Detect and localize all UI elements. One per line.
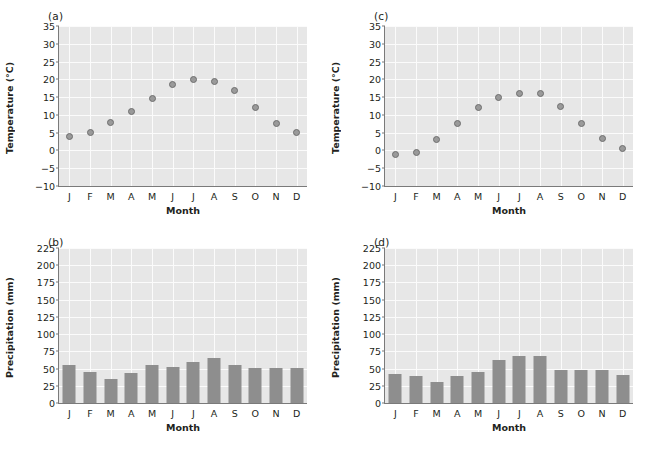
y-axis-tick-mark (382, 150, 385, 151)
gridline-horizontal (385, 334, 633, 335)
x-axis-tick-label: O (578, 408, 585, 419)
data-bar (249, 368, 262, 403)
gridline-horizontal (59, 133, 307, 134)
gridline-horizontal (385, 133, 633, 134)
data-point-marker (475, 104, 482, 111)
gridline-vertical (173, 26, 174, 186)
y-axis-tick-mark (382, 186, 385, 187)
panel-d-precipitation: (d) Precipitation (mm) Month 02550751001… (326, 226, 652, 452)
gridline-horizontal (59, 97, 307, 98)
gridline-horizontal (59, 150, 307, 151)
panel-c-y-axis-title: Temperature (°C) (328, 28, 342, 188)
y-axis-tick-mark (382, 403, 385, 404)
x-axis-tick-label: M (148, 408, 156, 419)
y-axis-tick-mark (382, 299, 385, 300)
gridline-horizontal (59, 26, 307, 27)
x-axis-tick-label: J (518, 191, 521, 202)
y-axis-tick-mark (382, 79, 385, 80)
panel-c-gridlines (385, 26, 633, 186)
x-axis-tick-label: N (598, 408, 605, 419)
data-bar (125, 373, 138, 403)
x-axis-tick-label: N (598, 191, 605, 202)
data-point-marker (273, 120, 280, 127)
x-axis-tick-label: M (474, 191, 482, 202)
panel-d-y-axis-title: Precipitation (mm) (328, 248, 342, 408)
x-axis-tick-label: S (558, 408, 564, 419)
gridline-horizontal (385, 26, 633, 27)
data-point-marker (516, 90, 523, 97)
panel-d-plot-area: Month 0255075100125150175200225JFMAMJJAS… (384, 248, 633, 404)
gridline-horizontal (385, 168, 633, 169)
x-axis-tick-label: N (272, 408, 279, 419)
panel-d-x-axis-title: Month (385, 422, 633, 433)
data-bar (616, 375, 629, 403)
data-bar (575, 370, 588, 403)
y-axis-tick-mark (382, 43, 385, 44)
x-axis-tick-label: D (293, 408, 300, 419)
y-axis-tick-mark (382, 385, 385, 386)
x-axis-tick-label: J (192, 191, 195, 202)
x-axis-tick-label: J (68, 408, 71, 419)
gridline-vertical (131, 26, 132, 186)
panel-a-y-axis-title: Temperature (°C) (2, 28, 16, 188)
climate-figure: (a) Temperature (°C) Month −10−505101520… (0, 0, 653, 452)
gridline-horizontal (59, 44, 307, 45)
y-axis-tick-mark (56, 368, 59, 369)
gridline-vertical (540, 26, 541, 186)
y-axis-tick-mark (56, 43, 59, 44)
y-axis-tick-mark (56, 403, 59, 404)
y-axis-tick-mark (382, 168, 385, 169)
x-axis-tick-label: M (474, 408, 482, 419)
data-bar (534, 356, 547, 403)
gridline-horizontal (385, 248, 633, 249)
gridline-vertical (623, 26, 624, 186)
x-axis-tick-label: S (558, 191, 564, 202)
panel-c-x-axis-title: Month (385, 205, 633, 216)
x-axis-tick-label: F (413, 408, 418, 419)
y-axis-tick-mark (382, 61, 385, 62)
y-axis-tick-mark (56, 282, 59, 283)
data-point-marker (557, 103, 564, 110)
x-axis-tick-label: A (454, 191, 461, 202)
x-axis-tick-label: J (518, 408, 521, 419)
gridline-vertical (499, 26, 500, 186)
data-bar (84, 372, 97, 403)
x-axis-tick-label: F (87, 408, 92, 419)
y-axis-tick-mark (56, 132, 59, 133)
gridline-vertical (437, 26, 438, 186)
data-point-marker (149, 95, 156, 102)
x-axis-tick-label: F (413, 191, 418, 202)
data-bar (389, 374, 402, 403)
data-bar (554, 370, 567, 403)
data-point-marker (128, 108, 135, 115)
gridline-horizontal (385, 62, 633, 63)
panel-b-precipitation: (b) Precipitation (mm) Month 02550751001… (0, 226, 326, 452)
data-bar (492, 360, 505, 403)
gridline-horizontal (59, 168, 307, 169)
x-axis-tick-label: N (272, 191, 279, 202)
x-axis-tick-label: O (252, 191, 259, 202)
data-point-marker (107, 119, 114, 126)
x-axis-tick-label: D (619, 408, 626, 419)
y-axis-tick-mark (382, 334, 385, 335)
data-bar (513, 356, 526, 403)
y-axis-tick-mark (56, 316, 59, 317)
gridline-vertical (111, 26, 112, 186)
y-axis-tick-mark (382, 351, 385, 352)
gridline-vertical (437, 248, 438, 403)
gridline-horizontal (385, 150, 633, 151)
data-bar (63, 365, 76, 403)
data-bar (596, 370, 609, 403)
x-axis-tick-label: F (87, 191, 92, 202)
x-axis-tick-label: S (232, 408, 238, 419)
data-bar (290, 368, 303, 403)
panel-a-temperature: (a) Temperature (°C) Month −10−505101520… (0, 0, 326, 226)
gridline-vertical (602, 26, 603, 186)
data-point-marker (392, 151, 399, 158)
data-bar (228, 365, 241, 403)
gridline-horizontal (385, 44, 633, 45)
panel-b-y-axis-title: Precipitation (mm) (2, 248, 16, 408)
y-axis-tick-mark (382, 248, 385, 249)
gridline-horizontal (59, 334, 307, 335)
y-axis-tick-mark (382, 265, 385, 266)
